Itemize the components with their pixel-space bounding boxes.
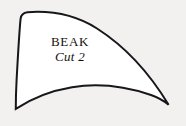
pattern-drawing xyxy=(0,0,186,126)
beak-outline-shape[interactable] xyxy=(16,12,169,109)
pattern-canvas: BEAK Cut 2 xyxy=(0,0,186,126)
